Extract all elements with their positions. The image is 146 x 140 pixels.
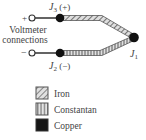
voltmeter-label-line2: connections (2, 35, 48, 45)
terminal-plus-icon[interactable] (29, 15, 35, 21)
j3-label: J3 (+) (49, 1, 70, 14)
legend-swatch-iron (36, 87, 48, 99)
junction-j2-icon (56, 49, 65, 58)
legend-label-constantan: Constantan (54, 105, 97, 115)
legend-swatch-constantan (36, 103, 48, 115)
constantan-wire (60, 36, 135, 56)
legend-label-copper: Copper (54, 121, 83, 131)
minus-sign: − (21, 47, 27, 58)
junction-j3-icon (56, 14, 65, 23)
voltmeter-label-line1: Voltmeter (9, 25, 47, 35)
j2-label: J2 (−) (49, 60, 70, 73)
iron-wire (60, 16, 135, 40)
junction-j1-icon (129, 33, 139, 43)
thermocouple-diagram: J3 (+) J2 (−) J1 + − Voltmeter connectio… (0, 0, 146, 140)
legend-label-iron: Iron (54, 89, 70, 99)
plus-sign: + (22, 13, 27, 23)
terminal-minus-icon[interactable] (29, 50, 35, 56)
j1-label: J1 (130, 48, 138, 61)
legend-swatch-copper (36, 119, 48, 131)
